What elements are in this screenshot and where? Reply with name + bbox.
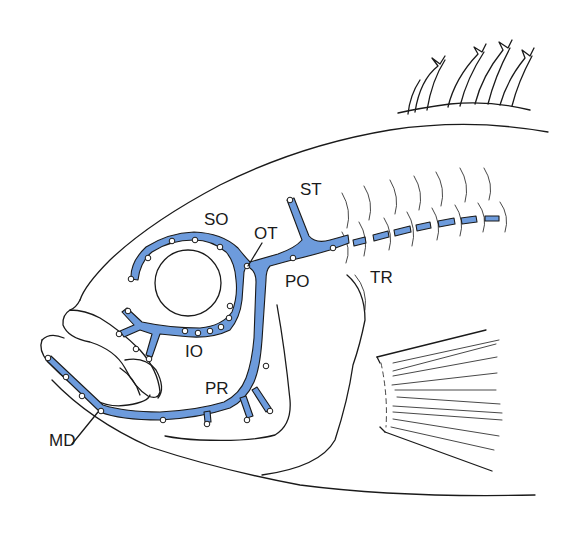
ventral-profile bbox=[52, 380, 535, 496]
label-otic: OT bbox=[254, 225, 278, 242]
label-supratemporal: ST bbox=[300, 181, 322, 198]
label-infraorbital: IO bbox=[185, 343, 203, 360]
pectoral-fin bbox=[377, 330, 502, 471]
preopercular-branch-2 bbox=[240, 396, 253, 418]
preopercular-branch-3 bbox=[252, 387, 271, 412]
dorsal-profile bbox=[80, 124, 548, 300]
label-trunk: TR bbox=[370, 269, 393, 286]
label-postotic: PO bbox=[285, 273, 310, 290]
dorsal-fin-spines bbox=[398, 40, 534, 114]
lower-jaw-inner bbox=[42, 335, 64, 340]
fish-head-drawing bbox=[0, 0, 570, 535]
label-preopercular: PR bbox=[205, 380, 229, 397]
snout-profile bbox=[70, 300, 80, 310]
scale-arcs bbox=[342, 168, 507, 310]
preopercular-branch-1 bbox=[204, 411, 211, 422]
md-leader-line bbox=[72, 412, 98, 444]
lateral-line-diagram: SO OT ST PO TR IO PR MD bbox=[0, 0, 570, 535]
label-supraorbital: SO bbox=[204, 211, 229, 228]
trunk-canal-segments bbox=[353, 216, 499, 246]
eye-orbit bbox=[155, 250, 221, 316]
label-mandibular: MD bbox=[49, 432, 75, 449]
